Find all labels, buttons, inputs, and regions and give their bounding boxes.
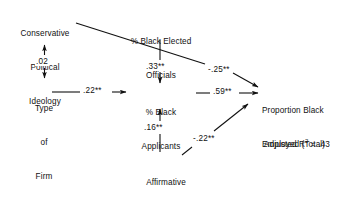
path-coefficient-aap-applicants: .16** [143,123,164,132]
path-coefficient-ideology-firm: .02 [35,57,49,66]
node-affirmative-action-program: Affirmative Action Program [126,155,206,202]
adjusted-r-squared-label: Adjusted R [264,140,305,149]
path-diagram: Conservative Political Ideology Type of … [0,0,361,202]
node-proportion-black-employed: Proportion Black Employed (Total) [262,83,360,173]
node-type-of-firm: Type of Firm [14,81,74,202]
node-label-line: Conservative [6,28,84,39]
node-label-line: Applicants [128,141,194,152]
path-coefficient-firm-applicants: .22** [82,86,103,95]
adjusted-r-squared: Adjusted R2 = .43 [264,140,330,150]
path-coefficient-applicants-employed: .59** [212,87,233,96]
node-label-line: % Black [128,107,194,118]
adjusted-r-squared-value: = .43 [309,140,330,149]
path-coefficient-officials-applicants: .33** [145,62,166,71]
edge-aap-employed-upper [214,104,248,131]
node-label-line: Officials [118,70,204,81]
path-coefficient-aap-employed: -.22** [192,134,216,143]
edge-ideology-employed-part2 [233,73,258,87]
node-label-line: Type [14,103,74,114]
node-label-line: Firm [14,171,74,182]
node-label-line: % Black Elected [118,36,204,47]
node-label-line: of [14,137,74,148]
node-label-line: Affirmative [126,177,206,188]
path-coefficient-ideology-employed: -.25** [207,65,231,74]
node-label-line: Proportion Black [262,105,360,116]
